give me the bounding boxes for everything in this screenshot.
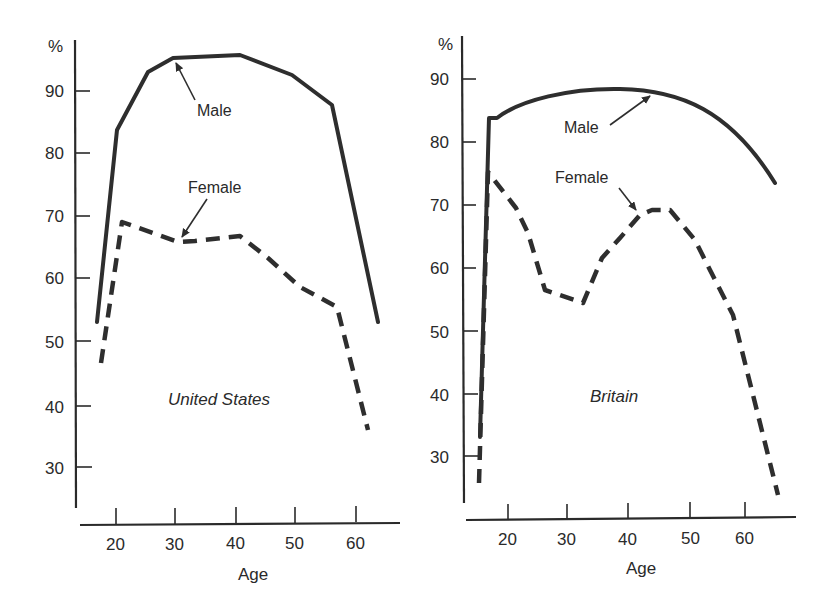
us-female-label: Female bbox=[188, 179, 241, 196]
britain-female-label: Female bbox=[555, 169, 608, 186]
us-panel-label: United States bbox=[168, 390, 271, 409]
us-x-tick-40: 40 bbox=[226, 534, 245, 553]
britain-x-tick-40: 40 bbox=[618, 530, 637, 549]
chart-united-states: % 90 80 70 60 50 40 30 20 30 40 50 60 Ag… bbox=[45, 37, 400, 584]
us-x-axis-title: Age bbox=[238, 565, 268, 584]
us-y-tick-30: 30 bbox=[45, 459, 64, 478]
britain-panel-label: Britain bbox=[590, 387, 638, 406]
figure: % 90 80 70 60 50 40 30 20 30 40 50 60 Ag… bbox=[0, 0, 830, 606]
britain-female-arrow-icon bbox=[619, 188, 636, 210]
britain-male-label: Male bbox=[564, 119, 599, 136]
britain-x-tick-60: 60 bbox=[735, 529, 754, 548]
britain-male-line bbox=[480, 89, 775, 437]
us-x-tick-20: 20 bbox=[106, 535, 125, 554]
us-y-unit: % bbox=[48, 37, 63, 56]
britain-y-unit: % bbox=[438, 35, 453, 54]
us-y-tick-80: 80 bbox=[45, 144, 64, 163]
britain-y-tick-90: 90 bbox=[430, 70, 449, 89]
britain-x-tick-20: 20 bbox=[498, 530, 517, 549]
britain-x-tick-50: 50 bbox=[681, 529, 700, 548]
us-y-tick-60: 60 bbox=[45, 269, 64, 288]
us-x-axis bbox=[80, 523, 400, 525]
britain-x-tick-30: 30 bbox=[557, 530, 576, 549]
us-x-tick-50: 50 bbox=[285, 534, 304, 553]
britain-y-tick-40: 40 bbox=[430, 386, 449, 405]
us-y-tick-90: 90 bbox=[45, 82, 64, 101]
us-female-arrow-icon bbox=[182, 199, 207, 237]
britain-x-ticks bbox=[508, 502, 745, 519]
us-x-tick-30: 30 bbox=[165, 535, 184, 554]
chart-britain: % 90 80 70 60 50 40 30 20 30 40 50 60 Ag… bbox=[430, 35, 796, 578]
britain-y-tick-80: 80 bbox=[430, 133, 449, 152]
britain-y-tick-70: 70 bbox=[430, 196, 449, 215]
us-x-tick-60: 60 bbox=[346, 534, 365, 553]
us-y-axis bbox=[75, 40, 76, 508]
britain-x-axis bbox=[466, 517, 796, 520]
us-y-tick-40: 40 bbox=[45, 398, 64, 417]
us-male-label: Male bbox=[197, 102, 232, 119]
britain-female-line bbox=[479, 172, 778, 495]
us-y-tick-50: 50 bbox=[45, 333, 64, 352]
britain-y-tick-30: 30 bbox=[430, 448, 449, 467]
britain-male-arrow-icon bbox=[610, 96, 650, 125]
us-male-arrow-icon bbox=[176, 63, 195, 100]
britain-y-tick-60: 60 bbox=[430, 259, 449, 278]
britain-y-axis bbox=[462, 36, 464, 503]
britain-y-tick-50: 50 bbox=[430, 323, 449, 342]
us-x-ticks bbox=[116, 506, 356, 524]
us-y-ticks bbox=[76, 91, 92, 467]
britain-x-axis-title: Age bbox=[626, 559, 656, 578]
us-y-tick-70: 70 bbox=[45, 207, 64, 226]
britain-y-ticks bbox=[463, 79, 480, 456]
